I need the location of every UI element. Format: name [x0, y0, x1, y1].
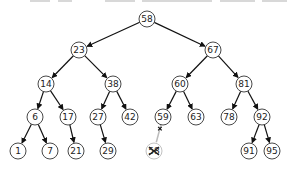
tree-node: 29	[100, 143, 116, 159]
tree-node: 59	[155, 109, 171, 125]
tree-edge	[183, 91, 192, 109]
node-label: 17	[62, 112, 73, 122]
tree-node: 81	[236, 76, 252, 92]
tree-edge	[50, 91, 63, 110]
tree-node: 6	[27, 109, 43, 125]
tree-node: 17	[60, 109, 76, 125]
node-label: 91	[243, 146, 254, 156]
tree-node: 23	[71, 42, 87, 58]
tree-edge	[252, 124, 259, 142]
tree-edge	[248, 91, 258, 109]
node-label: 92	[256, 112, 267, 122]
tree-node: 14	[38, 76, 54, 92]
node-label: 60	[174, 79, 186, 89]
node-label: 27	[92, 112, 103, 122]
tree-edge	[264, 125, 269, 143]
node-label: 63	[190, 112, 201, 122]
tree-edge	[102, 91, 110, 109]
tree-node: 58	[139, 11, 155, 27]
tree-edge	[186, 56, 207, 78]
tree-nodes: 5823671438608161727425963789217212958919…	[10, 11, 280, 159]
tree-node: 67	[205, 42, 221, 58]
tree-edge	[100, 125, 105, 143]
node-label: 14	[40, 79, 52, 89]
node-label: 29	[102, 146, 114, 156]
node-label: 23	[73, 45, 84, 55]
tree-edge	[52, 56, 73, 78]
tree-node: 27	[90, 109, 106, 125]
node-label: 81	[238, 79, 249, 89]
tree-node: 7	[42, 143, 58, 159]
node-label: 38	[107, 79, 119, 89]
tree-edge	[154, 22, 205, 46]
node-label: 67	[207, 45, 218, 55]
tree-node: 63	[188, 109, 204, 125]
node-label: 42	[124, 112, 135, 122]
node-label: 7	[47, 146, 53, 156]
tree-node: 38	[105, 76, 121, 92]
node-label: 21	[70, 146, 81, 156]
tree-edge	[70, 125, 74, 142]
node-label: 78	[223, 112, 235, 122]
tree-edge	[38, 124, 46, 142]
tree-edges	[22, 22, 269, 143]
tree-edge	[117, 91, 126, 109]
deleted-tree-node: 58	[146, 143, 162, 159]
binary-tree-diagram: 5823671438608161727425963789217212958919…	[0, 0, 289, 171]
tree-node: 92	[254, 109, 270, 125]
tree-edge	[233, 91, 241, 109]
tree-edge	[87, 22, 140, 46]
tree-edge	[22, 124, 31, 143]
tree-node: 95	[264, 143, 280, 159]
node-label: 95	[266, 146, 277, 156]
tree-node: 1	[10, 143, 26, 159]
tree-edge	[167, 91, 176, 109]
tree-edge	[38, 92, 44, 109]
tree-node: 21	[68, 143, 84, 159]
node-label: 6	[32, 112, 38, 122]
tree-node: 78	[221, 109, 237, 125]
node-label: 1	[15, 146, 21, 156]
tree-node: 42	[122, 109, 138, 125]
tree-node: 91	[241, 143, 257, 159]
node-label: 58	[141, 14, 153, 24]
tree-node: 60	[172, 76, 188, 92]
tree-edge	[85, 56, 107, 78]
tree-edge	[218, 56, 238, 77]
node-label: 59	[157, 112, 169, 122]
